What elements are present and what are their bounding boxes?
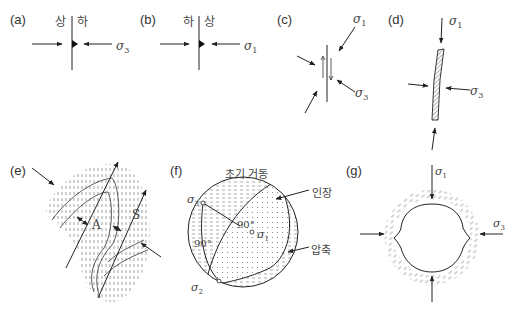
sigma1-label: σ1 xyxy=(449,14,462,30)
sigma3-label: σ3 xyxy=(187,193,199,208)
stress-diagram-figure: (a) 상 하 σ3 (b) 하 상 σ1 (c) σ1 σ3 (d) σ1 σ… xyxy=(0,0,516,312)
stress-arrow-upper-left xyxy=(297,56,315,65)
panel-c xyxy=(297,27,355,113)
triangle-marker-icon xyxy=(72,40,78,48)
sigma2-label: σ2 xyxy=(191,281,203,296)
panel-f xyxy=(188,177,309,287)
tension-label: 인장 xyxy=(312,184,332,200)
sigma1-label: σ1 xyxy=(244,39,257,55)
antiform-label: A xyxy=(92,218,101,232)
sigma3-label: σ3 xyxy=(355,86,368,102)
sigma3-label: σ3 xyxy=(493,217,505,232)
fold-halo xyxy=(45,164,150,302)
sigma3-label: σ3 xyxy=(470,84,483,100)
sigma3-label: σ3 xyxy=(116,39,129,55)
sigma3-point xyxy=(201,201,205,205)
sigma3-arrow xyxy=(337,80,355,92)
hanging-wall-label: 상 xyxy=(204,12,215,29)
panel-e xyxy=(32,162,161,302)
stereonet-title: 초기 거동 xyxy=(225,165,269,181)
sigma1-arrow xyxy=(441,18,442,43)
hanging-wall-label: 상 xyxy=(55,12,66,29)
synform-label: S xyxy=(132,208,140,222)
footwall-label: 하 xyxy=(183,12,194,29)
panel-e-label: (e) xyxy=(10,163,26,178)
figure-svg xyxy=(0,0,516,312)
sigma2-point xyxy=(217,279,221,283)
borehole-outline xyxy=(394,204,470,272)
sigma1-point xyxy=(250,230,254,234)
stress-arrow-bottom xyxy=(432,128,435,150)
compression-label: 압축 xyxy=(311,241,331,257)
panel-c-label: (c) xyxy=(277,12,292,27)
stress-arrow-lower-left xyxy=(305,91,317,113)
panel-b-label: (b) xyxy=(140,12,156,27)
sigma1-label: σ1 xyxy=(353,12,366,28)
compression-arrow-top-left xyxy=(32,168,54,185)
panel-g-label: (g) xyxy=(346,163,362,178)
sigma1-arrow xyxy=(339,27,355,51)
angle-label-sigma1: 90° xyxy=(237,219,255,230)
panel-b xyxy=(160,16,240,70)
sigma1-label: σ1 xyxy=(435,165,447,180)
triangle-marker-icon xyxy=(199,40,205,48)
sigma3-arrow xyxy=(446,88,470,90)
panel-g xyxy=(360,165,503,302)
panel-d xyxy=(408,18,470,150)
deformation-band xyxy=(432,49,444,120)
panel-f-label: (f) xyxy=(170,163,182,178)
sigma1-label: σ1 xyxy=(257,228,269,243)
footwall-label: 하 xyxy=(77,12,88,29)
stress-arrow-left xyxy=(408,84,428,86)
panel-d-label: (d) xyxy=(388,12,404,27)
panel-a-label: (a) xyxy=(10,12,26,27)
panel-a xyxy=(32,16,112,70)
angle-label-sigma2: 90° xyxy=(194,238,212,249)
